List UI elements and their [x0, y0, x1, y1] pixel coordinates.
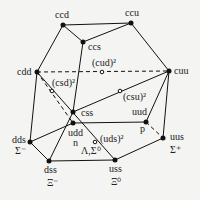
- node-label-ccs: ccs: [88, 42, 101, 52]
- node-label-cdd: cdd: [17, 67, 31, 77]
- node-label-cuu: cuu: [174, 66, 188, 76]
- node-sub-p: p: [140, 124, 145, 134]
- node-label-uus: uus: [170, 132, 184, 142]
- node-label-uss: uss: [109, 164, 122, 174]
- node-sub-xi-zero: Ξ⁰: [111, 177, 121, 187]
- node-sub-sigma-minus: Σ⁻: [15, 146, 26, 156]
- point-label-cud: (cud)²: [92, 58, 116, 68]
- node-label-css: css: [81, 108, 93, 118]
- node-label-uud: uud: [132, 107, 147, 117]
- point-sub-lambda-sigma0: Λ,Σ⁰: [81, 146, 101, 156]
- node-sub-xi-minus: Ξ⁻: [47, 178, 58, 188]
- node-label-dss: dss: [44, 165, 57, 175]
- point-label-csu: (csu)²: [123, 92, 146, 102]
- diagram-lines: [0, 0, 200, 200]
- point-label-uds: (uds)²: [100, 134, 124, 144]
- point-label-csd: (csd)²: [52, 78, 75, 88]
- node-sub-n: n: [73, 138, 78, 148]
- quark-multiplet-diagram: ccd ccu ccs cdd cuu (cud)² (csd)² (csu)²…: [0, 0, 200, 200]
- node-sub-sigma-plus: Σ⁺: [170, 145, 181, 155]
- node-label-dds: dds: [12, 135, 26, 145]
- node-label-ccd: ccd: [55, 10, 69, 20]
- node-label-ccu: ccu: [125, 8, 139, 18]
